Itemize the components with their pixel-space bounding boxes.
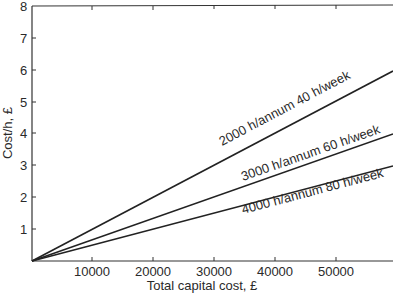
x-axis-label: Total capital cost, £	[147, 278, 258, 293]
series-line-2000h	[32, 71, 393, 261]
x-tick-label: 50000	[318, 264, 354, 279]
y-tick-label: 8	[20, 0, 27, 14]
y-tick-label: 4	[20, 126, 27, 141]
y-tick-label: 2	[20, 190, 27, 205]
x-tick-label: 30000	[196, 264, 232, 279]
x-tick-label: 10000	[74, 264, 110, 279]
cost-chart: 1 2 3 4 5 6 7 8 10000 20000 30000 40000 …	[0, 0, 393, 293]
y-tick-label: 3	[20, 158, 27, 173]
y-tick-label: 6	[20, 63, 27, 78]
y-tick-label: 1	[20, 222, 27, 237]
top-frame	[32, 5, 393, 6]
y-tick-label: 5	[20, 95, 27, 110]
series-line-3000h	[32, 134, 393, 261]
y-axis-label: Cost/h, £	[0, 106, 15, 159]
y-tick-label: 7	[20, 31, 27, 46]
x-tick-label: 20000	[135, 264, 171, 279]
x-tick-label: 40000	[257, 264, 293, 279]
